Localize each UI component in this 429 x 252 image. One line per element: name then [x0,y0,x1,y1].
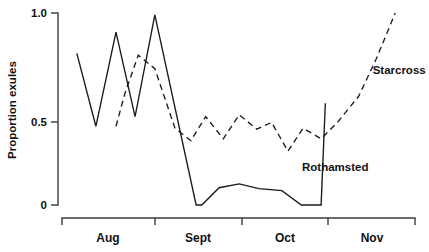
series-line-rothamsted [77,15,326,205]
x-tick-label-aug: Aug [96,231,119,245]
chart-figure: 1.0 0.5 0 Proportion exules Aug Sept Oct… [0,0,429,252]
y-tick-label-0: 0 [41,199,47,211]
y-tick-label-0point5: 0.5 [31,116,48,128]
x-tick-label-nov: Nov [361,231,384,245]
x-tick-label-oct: Oct [275,231,295,245]
line-chart-canvas: 1.0 0.5 0 Proportion exules Aug Sept Oct… [0,0,429,252]
series-annotation-rothamsted: Rothamsted [302,161,368,173]
y-tick-label-1: 1.0 [31,7,47,19]
series-annotation-starcross: Starcross [373,64,426,76]
y-axis-title: Proportion exules [6,61,18,159]
series-line-starcross [116,13,395,151]
x-tick-label-sept: Sept [185,231,211,245]
